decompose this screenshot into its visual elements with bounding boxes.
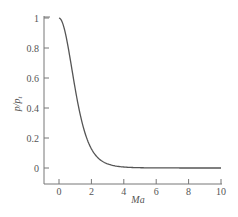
y-tick-label: 0.2 (27, 133, 40, 144)
y-tick-label: 0 (34, 163, 39, 174)
y-tick-label: 0.8 (27, 43, 40, 54)
x-tick-label: 10 (216, 186, 226, 197)
y-tick-label: 0.4 (27, 103, 40, 114)
x-tick-label: 8 (186, 186, 191, 197)
y-axis-label: p/pt (11, 96, 24, 113)
x-tick-label: 4 (121, 186, 126, 197)
svg-text:p/pt: p/pt (11, 96, 24, 113)
x-tick-label: 0 (57, 186, 62, 197)
x-tick-label: 2 (89, 186, 94, 197)
data-line (59, 18, 221, 168)
x-tick-label: 6 (154, 186, 159, 197)
y-tick-label: 0.6 (27, 73, 40, 84)
axes (44, 16, 222, 184)
chart: 00.20.40.60.81 0246810 Ma p/pt (0, 0, 238, 217)
y-tick-label: 1 (34, 13, 39, 24)
y-ticks: 00.20.40.60.81 (27, 13, 50, 174)
x-axis-label: Ma (130, 194, 144, 205)
